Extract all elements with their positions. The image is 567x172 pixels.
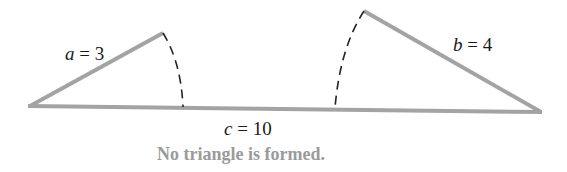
caption: No triangle is formed. bbox=[157, 144, 325, 164]
label-c: c = 10 bbox=[224, 118, 272, 139]
arc-b bbox=[335, 11, 364, 108]
arc-a bbox=[163, 33, 183, 107]
side-b bbox=[364, 11, 541, 112]
side-c bbox=[28, 106, 542, 112]
label-b: b = 4 bbox=[453, 34, 493, 55]
no-triangle-diagram: a = 3 b = 4 c = 10 No triangle is formed… bbox=[0, 0, 567, 172]
label-a: a = 3 bbox=[65, 43, 104, 64]
